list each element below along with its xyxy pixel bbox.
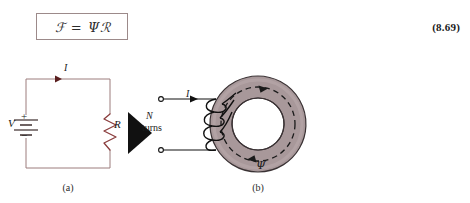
terminal-top — [159, 97, 164, 102]
label-terminal-positive: + — [21, 110, 27, 122]
current-arrow-figure-b — [190, 96, 198, 103]
figure-a-graphics — [0, 0, 470, 203]
terminal-bottom — [159, 148, 164, 153]
label-terminal-negative: − — [21, 129, 27, 141]
caption-figure-b: (b) — [238, 182, 278, 193]
label-turns-count: N — [146, 110, 153, 121]
label-current-figure-b: I — [186, 88, 189, 99]
toroid-inner-edge — [232, 98, 284, 150]
label-turns-word: turns — [142, 122, 162, 133]
label-resistor: R — [114, 118, 121, 130]
label-flux: Ψ — [256, 159, 266, 172]
toroid-core — [210, 76, 306, 172]
label-current-figure-a: I — [64, 62, 67, 73]
caption-figure-a: (a) — [48, 182, 88, 193]
figure-page: ℱ = Ψℛ (8.69) — [0, 0, 470, 203]
label-voltage-source: V — [8, 117, 15, 129]
current-arrow-figure-a — [55, 76, 62, 83]
